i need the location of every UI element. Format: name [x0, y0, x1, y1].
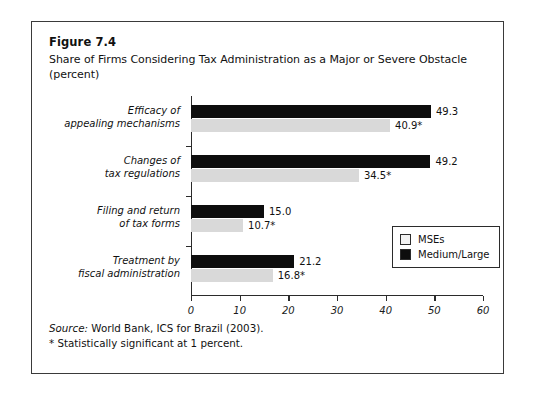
x-tick [386, 296, 387, 301]
bar-value-label: 34.5* [359, 170, 391, 181]
bar-value-label: 16.8* [273, 270, 305, 281]
bar-group: Changes oftax regulations49.234.5* [191, 155, 483, 182]
y-tick [186, 146, 191, 147]
bar [191, 169, 359, 182]
category-label: Treatment byfiscal administration [30, 254, 180, 280]
bar-row: 40.9* [191, 119, 483, 132]
figure-frame: Figure 7.4 Share of Firms Considering Ta… [31, 21, 504, 374]
bar [191, 269, 273, 282]
figure-heading: Figure 7.4 Share of Firms Considering Ta… [49, 35, 489, 82]
legend-label: Medium/Large [418, 249, 490, 260]
category-label-line: Efficacy of [30, 104, 180, 117]
bar-row: 49.3 [191, 105, 483, 118]
source-note: Source: World Bank, ICS for Brazil (2003… [49, 321, 479, 336]
bar [191, 255, 294, 268]
category-label: Changes oftax regulations [30, 154, 180, 180]
chart-legend: MSEsMedium/Large [392, 226, 500, 268]
x-tick-label: 0 [188, 305, 194, 316]
figure-title: Share of Firms Considering Tax Administr… [49, 52, 489, 82]
legend-label: MSEs [418, 234, 445, 245]
source-label: Source: [49, 322, 88, 334]
category-label-line: appealing mechanisms [30, 117, 180, 130]
bar [191, 119, 390, 132]
legend-item: MSEs [400, 232, 490, 247]
bar-value-label: 49.2 [430, 156, 457, 167]
x-tick-label: 30 [331, 305, 344, 316]
x-tick-label: 50 [428, 305, 441, 316]
x-tick [483, 296, 484, 301]
figure-notes: Source: World Bank, ICS for Brazil (2003… [49, 321, 479, 351]
bar-value-label: 40.9* [390, 120, 422, 131]
bar-value-label: 15.0 [264, 206, 291, 217]
significance-note: * Statistically significant at 1 percent… [49, 336, 479, 351]
category-label-line: of tax forms [30, 217, 180, 230]
chart-plot-area: 0102030405060 Efficacy ofappealing mecha… [191, 96, 483, 296]
bar-row: 15.0 [191, 205, 483, 218]
category-label-line: Filing and return [30, 204, 180, 217]
bar [191, 105, 431, 118]
bar [191, 205, 264, 218]
category-label-line: Treatment by [30, 254, 180, 267]
x-tick [434, 296, 435, 301]
legend-swatch [400, 249, 411, 260]
bar-row: 16.8* [191, 269, 483, 282]
bar [191, 155, 430, 168]
x-tick [337, 296, 338, 301]
category-label: Filing and returnof tax forms [30, 204, 180, 230]
category-label-line: Changes of [30, 154, 180, 167]
x-tick [288, 296, 289, 301]
category-label: Efficacy ofappealing mechanisms [30, 104, 180, 130]
bar-row: 49.2 [191, 155, 483, 168]
category-label-line: tax regulations [30, 167, 180, 180]
bar [191, 219, 243, 232]
bar-row: 34.5* [191, 169, 483, 182]
x-tick-label: 10 [233, 305, 246, 316]
legend-swatch [400, 234, 411, 245]
source-text: World Bank, ICS for Brazil (2003). [88, 322, 263, 334]
y-tick [186, 246, 191, 247]
legend-item: Medium/Large [400, 247, 490, 262]
x-tick [191, 296, 192, 301]
x-tick [240, 296, 241, 301]
x-tick-label: 40 [379, 305, 392, 316]
x-tick-label: 20 [282, 305, 295, 316]
bar-value-label: 49.3 [431, 106, 458, 117]
bar-group: Efficacy ofappealing mechanisms49.340.9* [191, 105, 483, 132]
category-label-line: fiscal administration [30, 267, 180, 280]
y-tick [186, 196, 191, 197]
x-tick-label: 60 [477, 305, 490, 316]
bar-value-label: 21.2 [294, 256, 321, 267]
bar-value-label: 10.7* [243, 220, 275, 231]
figure-number: Figure 7.4 [49, 35, 489, 49]
